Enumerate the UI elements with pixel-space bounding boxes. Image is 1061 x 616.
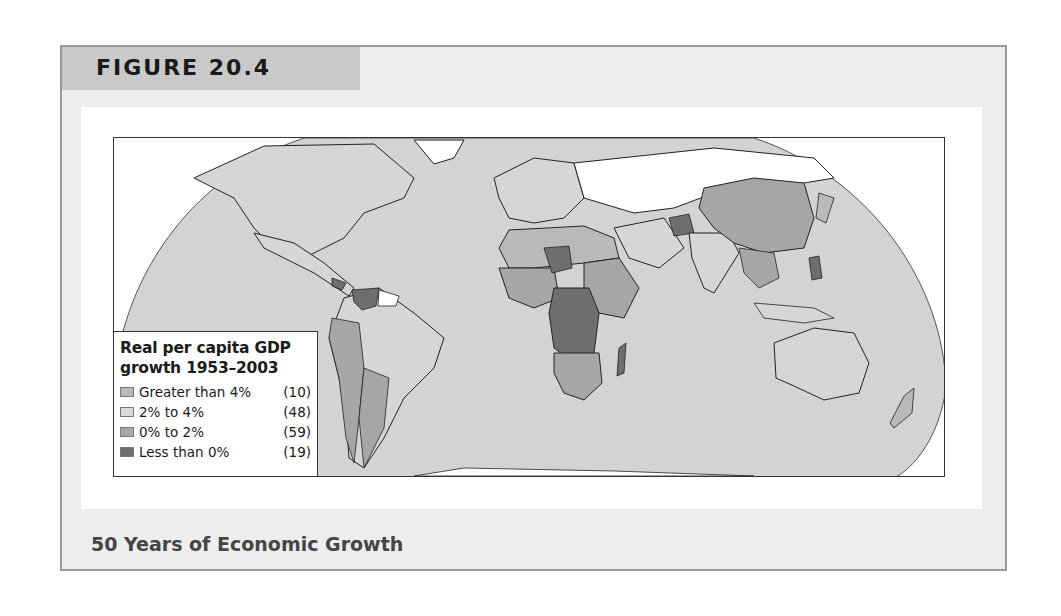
world-map: Real per capita GDP growth 1953–2003 Gre…: [113, 137, 945, 477]
legend-swatch: [120, 427, 134, 437]
legend-item-greater-than-4: Greater than 4% (10): [120, 382, 317, 402]
legend-item-2-to-4: 2% to 4% (48): [120, 402, 317, 422]
legend-count: (48): [283, 402, 311, 422]
figure-number: FIGURE 20.4: [96, 55, 271, 80]
legend-count: (10): [283, 382, 311, 402]
legend-count: (19): [283, 442, 311, 462]
legend-item-0-to-2: 0% to 2% (59): [120, 422, 317, 442]
figure-panel: Real per capita GDP growth 1953–2003 Gre…: [81, 107, 982, 509]
legend-item-less-than-0: Less than 0% (19): [120, 442, 317, 462]
legend-label: Greater than 4%: [139, 382, 251, 402]
legend-swatch: [120, 387, 134, 397]
legend-title-line1: Real per capita GDP: [120, 338, 317, 358]
figure-frame: FIGURE 20.4: [60, 45, 1007, 571]
legend-label: Less than 0%: [139, 442, 229, 462]
legend-label: 2% to 4%: [139, 402, 204, 422]
legend-swatch: [120, 447, 134, 457]
legend-label: 0% to 2%: [139, 422, 204, 442]
figure-header: FIGURE 20.4: [62, 47, 360, 90]
legend-swatch: [120, 407, 134, 417]
figure-caption: 50 Years of Economic Growth: [91, 533, 403, 555]
map-legend: Real per capita GDP growth 1953–2003 Gre…: [114, 331, 318, 477]
legend-count: (59): [283, 422, 311, 442]
legend-title-line2: growth 1953–2003: [120, 358, 317, 378]
